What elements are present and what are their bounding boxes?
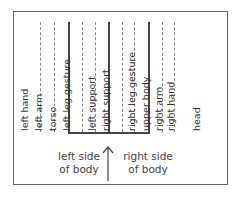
label-head: head	[192, 107, 202, 131]
label-left-leg-gesture: left leg gesture	[62, 59, 72, 131]
label-right-arm: right arm	[154, 87, 164, 131]
caption-left-line2: of body	[54, 163, 104, 176]
dotted-line-left-leg	[82, 22, 83, 132]
caption-right-side: right side of body	[117, 150, 179, 176]
label-right-support: right support	[101, 69, 111, 131]
caption-right-line1: right side	[117, 150, 179, 163]
label-right-leg-gesture: right leg gesture	[127, 52, 137, 131]
label-left-arm: left arm	[34, 94, 44, 131]
label-right-hand: right hand	[166, 82, 176, 131]
label-torso: torso	[48, 107, 58, 131]
dotted-line-right-support	[122, 22, 123, 132]
caption-left-line1: left side	[54, 150, 104, 163]
label-upper-body: upper body	[141, 77, 151, 131]
staff-base-line	[68, 132, 150, 134]
label-left-hand: left hand	[20, 89, 30, 131]
label-left-support: left support	[87, 76, 97, 131]
caption-right-line2: of body	[117, 163, 179, 176]
caption-left-side: left side of body	[54, 150, 104, 176]
